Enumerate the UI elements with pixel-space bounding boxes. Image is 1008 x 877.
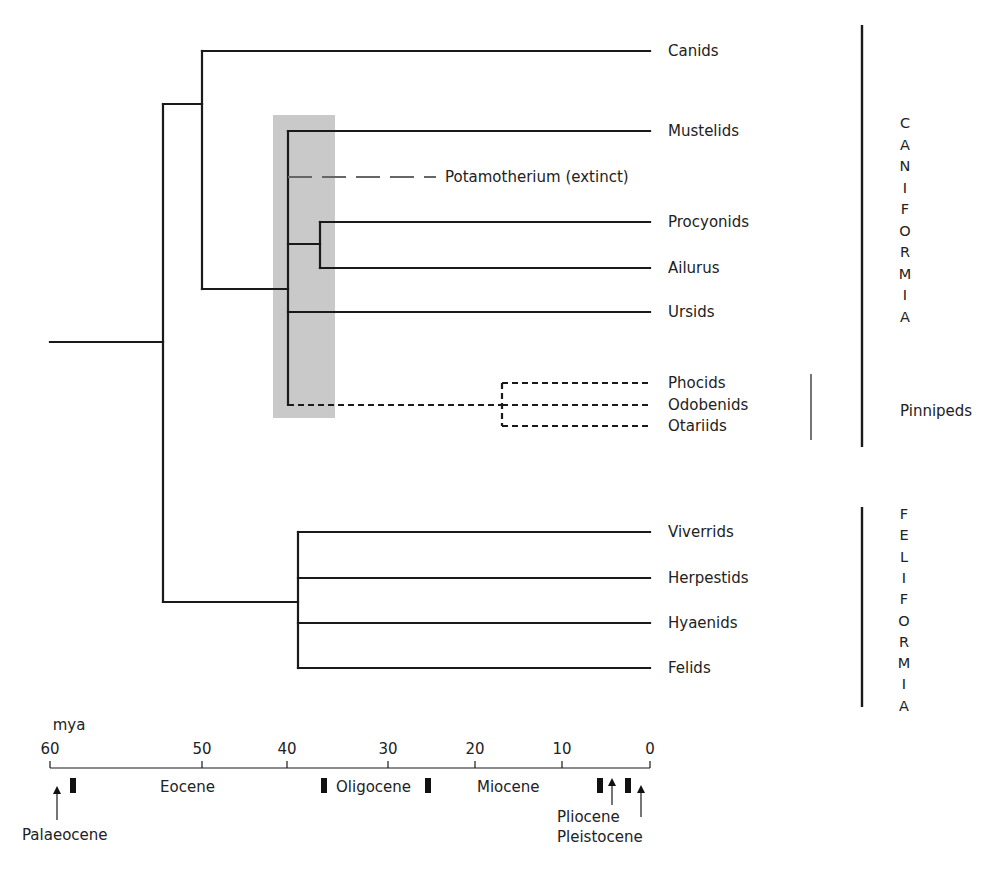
feliformia-letter: A xyxy=(899,698,909,714)
feliformia-letter: M xyxy=(898,655,911,671)
epoch-label: Miocene xyxy=(477,778,540,796)
feliformia-letter: I xyxy=(902,570,906,586)
caniformia-letter: N xyxy=(900,158,911,174)
taxon-label: Procyonids xyxy=(668,213,749,231)
taxon-label: Herpestids xyxy=(668,569,749,587)
feliformia-letter: L xyxy=(900,549,908,565)
taxon-label: Phocids xyxy=(668,374,726,392)
caniformia-letter: I xyxy=(903,180,907,196)
caniformia-letter: I xyxy=(903,287,907,303)
taxon-labels: CanidsMustelidsPotamotherium (extinct)Pr… xyxy=(445,42,749,677)
axis-tick-label: 60 xyxy=(40,740,59,758)
taxon-label: Viverrids xyxy=(668,523,734,541)
caniformia-letter: R xyxy=(900,244,910,260)
epoch-label: Eocene xyxy=(160,778,215,796)
caniformia-letter: A xyxy=(900,309,910,325)
axis-tick-label: 40 xyxy=(277,740,296,758)
epoch-boundary-marker xyxy=(597,778,603,793)
axis-unit-label: mya xyxy=(53,716,86,734)
highlight-region xyxy=(273,115,335,418)
tree-branches xyxy=(50,51,650,668)
epoch-label: Palaeocene xyxy=(22,826,108,844)
taxon-label: Canids xyxy=(668,42,719,60)
feliformia-letter: O xyxy=(898,613,909,629)
caniformia-letter: F xyxy=(901,201,909,217)
axis-tick-label: 20 xyxy=(465,740,484,758)
axis-tick-label: 0 xyxy=(645,740,655,758)
taxon-label: Hyaenids xyxy=(668,614,738,632)
epoch-boundary-marker xyxy=(70,778,76,793)
epoch-boundary-marker xyxy=(625,778,631,793)
epoch-label: Oligocene xyxy=(336,778,411,796)
taxon-label: Otariids xyxy=(668,417,727,435)
caniformia-letter: A xyxy=(900,137,910,153)
epoch-boundary-marker xyxy=(425,778,431,793)
caniformia-letter: M xyxy=(899,266,912,282)
axis-tick-label: 10 xyxy=(552,740,571,758)
taxon-label: Potamotherium (extinct) xyxy=(445,168,629,186)
taxon-label: Ursids xyxy=(668,303,715,321)
time-axis: 6050403020100myaPalaeoceneEoceneOligocen… xyxy=(22,716,655,846)
epoch-label: Pliocene xyxy=(557,808,620,826)
taxon-label: Mustelids xyxy=(668,122,739,140)
arrow-up-icon xyxy=(608,778,616,786)
group-brackets: CANIFORMIAPinnipedsFELIFORMIA xyxy=(811,25,972,714)
arrow-up-icon xyxy=(637,785,645,793)
axis-tick-label: 50 xyxy=(192,740,211,758)
epoch-label: Pleistocene xyxy=(557,828,643,846)
epoch-boundary-marker xyxy=(321,778,327,793)
feliformia-letter: F xyxy=(900,591,908,607)
feliformia-letter: R xyxy=(899,634,909,650)
taxon-label: Felids xyxy=(668,659,711,677)
feliformia-letter: I xyxy=(902,676,906,692)
carnivora-phylogeny-diagram: CanidsMustelidsPotamotherium (extinct)Pr… xyxy=(0,0,1008,877)
feliformia-letter: E xyxy=(899,527,908,543)
axis-tick-label: 30 xyxy=(378,740,397,758)
arrow-up-icon xyxy=(53,786,61,794)
taxon-label: Odobenids xyxy=(668,396,748,414)
pinnipeds-label: Pinnipeds xyxy=(900,402,972,420)
taxon-label: Ailurus xyxy=(668,259,720,277)
caniformia-letter: O xyxy=(899,223,910,239)
caniformia-letter: C xyxy=(900,115,910,131)
feliformia-letter: F xyxy=(900,506,908,522)
